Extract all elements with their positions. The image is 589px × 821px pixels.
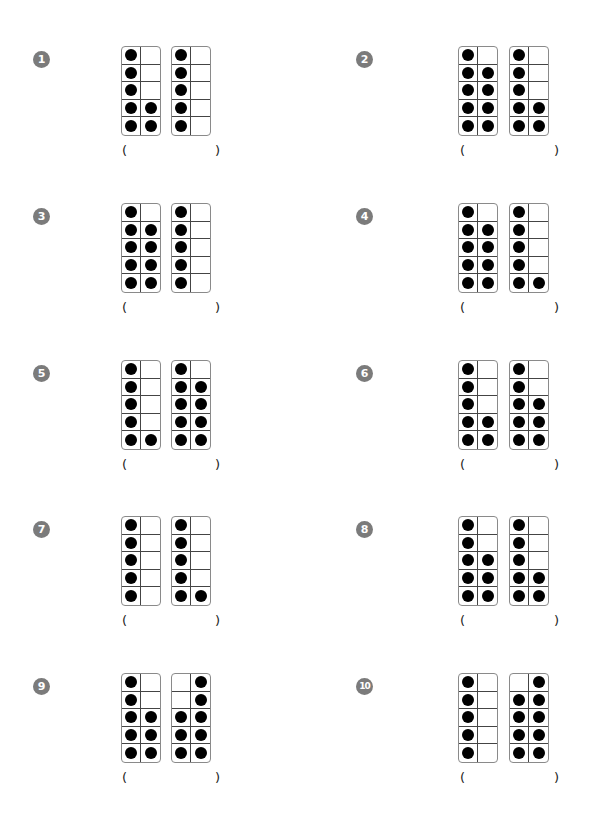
- answer-blank[interactable]: [132, 613, 211, 629]
- counter-dot: [175, 381, 187, 393]
- frame-cell: [122, 414, 141, 432]
- counter-dot: [175, 554, 187, 566]
- frame-cell: [529, 204, 548, 222]
- frame-cell: [459, 744, 478, 762]
- frame-cell: [141, 587, 160, 605]
- counter-dot: [482, 241, 494, 253]
- counter-dot: [175, 277, 187, 289]
- answer-close-paren: ): [554, 300, 559, 315]
- counter-dot: [195, 590, 207, 602]
- counter-dot: [462, 572, 474, 584]
- counter-dot: [125, 554, 137, 566]
- frame-cell: [478, 82, 497, 100]
- counter-dot: [513, 277, 525, 289]
- counter-dot: [195, 747, 207, 759]
- frame-cell: [191, 552, 210, 570]
- counter-dot: [145, 434, 157, 446]
- frame-cell: [141, 692, 160, 710]
- frame-cell: [191, 744, 210, 762]
- answer-open-paren: (: [460, 613, 465, 628]
- counter-dot: [533, 694, 545, 706]
- answer-blank[interactable]: [470, 770, 550, 786]
- counter-dot: [125, 590, 137, 602]
- counter-dot: [482, 102, 494, 114]
- answer-blank[interactable]: [470, 457, 550, 473]
- frame-cell: [510, 517, 529, 535]
- counter-dot: [195, 398, 207, 410]
- left-ten-frame: [121, 46, 161, 136]
- counter-dot: [175, 102, 187, 114]
- frame-cell: [141, 431, 160, 449]
- counter-dot: [195, 381, 207, 393]
- counter-dot: [462, 102, 474, 114]
- frame-cell: [191, 587, 210, 605]
- frame-cell: [459, 361, 478, 379]
- counter-dot: [145, 241, 157, 253]
- counter-dot: [533, 277, 545, 289]
- counter-dot: [513, 381, 525, 393]
- right-ten-frame: [509, 46, 549, 136]
- counter-dot: [145, 711, 157, 723]
- counter-dot: [175, 206, 187, 218]
- counter-dot: [513, 729, 525, 741]
- frame-cell: [510, 535, 529, 553]
- frame-cell: [172, 65, 191, 83]
- frame-cell: [191, 257, 210, 275]
- left-ten-frame: [458, 516, 498, 606]
- problem-number-badge: 9: [33, 678, 50, 695]
- frame-cell: [478, 414, 497, 432]
- frame-cell: [172, 517, 191, 535]
- frame-cell: [191, 692, 210, 710]
- frame-cell: [459, 431, 478, 449]
- frame-cell: [141, 82, 160, 100]
- frame-cell: [459, 692, 478, 710]
- frame-cell: [529, 570, 548, 588]
- counter-dot: [482, 590, 494, 602]
- answer-blank[interactable]: [132, 770, 211, 786]
- frame-cell: [191, 274, 210, 292]
- counter-dot: [175, 259, 187, 271]
- frame-cell: [122, 82, 141, 100]
- frame-cell: [191, 65, 210, 83]
- frame-cell: [510, 692, 529, 710]
- frame-cell: [529, 379, 548, 397]
- counter-dot: [195, 711, 207, 723]
- frame-cell: [510, 727, 529, 745]
- counter-dot: [533, 102, 545, 114]
- answer-close-paren: ): [554, 143, 559, 158]
- frame-cell: [141, 47, 160, 65]
- counter-dot: [533, 729, 545, 741]
- counter-dot: [195, 416, 207, 428]
- answer-close-paren: ): [215, 143, 220, 158]
- frame-cell: [510, 239, 529, 257]
- counter-dot: [462, 519, 474, 531]
- left-ten-frame: [458, 46, 498, 136]
- answer-blank[interactable]: [132, 457, 211, 473]
- counter-dot: [175, 537, 187, 549]
- frame-cell: [191, 100, 210, 118]
- counter-dot: [513, 747, 525, 759]
- frame-cell: [122, 570, 141, 588]
- frame-cell: [172, 570, 191, 588]
- answer-blank[interactable]: [132, 300, 211, 316]
- frame-cell: [141, 674, 160, 692]
- counter-dot: [175, 434, 187, 446]
- counter-dot: [462, 84, 474, 96]
- counter-dot: [482, 277, 494, 289]
- right-ten-frame: [509, 516, 549, 606]
- frame-cell: [459, 535, 478, 553]
- frame-cell: [459, 65, 478, 83]
- answer-blank[interactable]: [132, 143, 211, 159]
- problem-number-badge: 6: [356, 365, 373, 382]
- right-ten-frame: [509, 360, 549, 450]
- counter-dot: [125, 67, 137, 79]
- counter-dot: [482, 416, 494, 428]
- answer-blank[interactable]: [470, 300, 550, 316]
- answer-blank[interactable]: [470, 613, 550, 629]
- answer-blank[interactable]: [470, 143, 550, 159]
- counter-dot: [462, 277, 474, 289]
- left-ten-frame: [121, 360, 161, 450]
- counter-dot: [175, 120, 187, 132]
- frame-cell: [459, 274, 478, 292]
- frame-cell: [172, 274, 191, 292]
